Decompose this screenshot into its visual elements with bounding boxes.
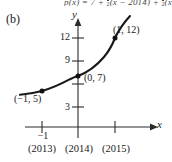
x-axis-label: x [157,118,162,130]
point-label-neg1-5: (−1, 5) [14,93,41,104]
point-label-1-12: (1, 12) [113,24,140,35]
point-label-0-7: (0, 7) [84,72,106,83]
figure-panel-b: p(x) = 7 + 52(x − 2014) + 32(x (b) y x 1… [0,0,172,162]
data-point-0-7 [76,74,81,79]
y-tick-label-3: 3 [52,101,70,112]
y-tick-label-12: 12 [52,31,70,42]
data-point-1-12 [113,36,118,41]
y-axis-label: y [72,8,77,20]
y-tick-label-9: 9 [52,54,70,65]
x-tick-label-neg1: −1 [34,130,52,141]
year-label-2015: (2015) [92,143,140,154]
